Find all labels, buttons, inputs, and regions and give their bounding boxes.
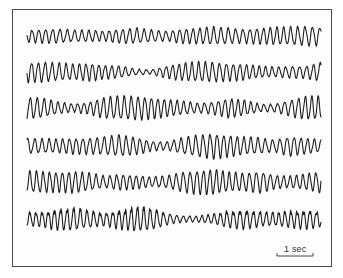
trace-1	[27, 26, 321, 46]
trace-6	[27, 207, 321, 231]
trace-3	[27, 96, 321, 121]
trace-5	[27, 170, 321, 195]
waveform-plot	[0, 0, 343, 278]
trace-4	[27, 134, 321, 159]
scale-bar-label: 1 sec	[284, 244, 307, 254]
trace-2	[27, 61, 321, 83]
traces-group	[27, 26, 321, 231]
